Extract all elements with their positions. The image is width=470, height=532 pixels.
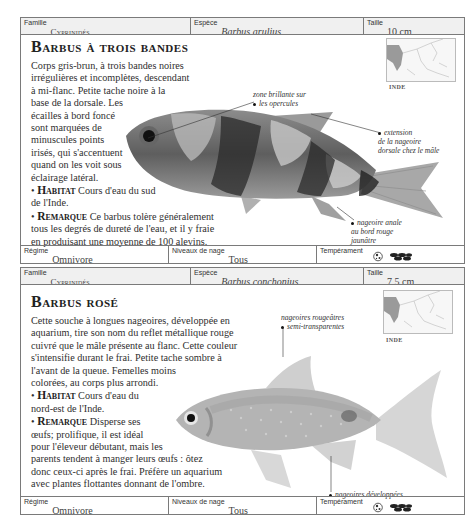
annotation-line: semi-transparentes: [287, 322, 344, 331]
card-header: Famille Cyprinidés Espèce Barbus arulius…: [21, 18, 464, 35]
regime-cell: Régime Omnivore: [21, 497, 169, 514]
desc-line: Cette souche à longues nageoires, dévelo…: [31, 315, 301, 327]
desc-line: l'avant de la queue. Femelles moins: [31, 365, 301, 377]
leader-line-icon: [336, 206, 356, 222]
annotation-line: zone brillante sur: [253, 90, 306, 99]
famille-value: Cyprinidés: [51, 277, 90, 284]
remarque-text: Disperse ses: [90, 416, 141, 427]
pointer-dot-icon: [351, 222, 354, 225]
famille-cell: Famille Cyprinidés: [21, 18, 191, 34]
peaceful-fish-icon: [373, 502, 383, 513]
range-map: [383, 290, 453, 334]
taille-label: Taille: [367, 269, 383, 276]
espece-label: Espèce: [194, 19, 217, 26]
habitat-text: Cours d'eau du sud: [78, 185, 155, 196]
fish-card-barbus-conchonius: Famille Cyprinidés Espèce Barbus conchon…: [20, 267, 465, 515]
temperament-label: Tempérament: [320, 498, 363, 505]
espece-value: Barbus conchonius: [221, 276, 298, 284]
desc-line: cuivré que le mâle présente au flanc. Ce…: [31, 340, 301, 352]
annotation-line: nageoire anale: [357, 218, 402, 227]
map-label: INDE: [389, 84, 406, 90]
desc-line: aquarium, tire son nom du reflet métalli…: [31, 327, 301, 339]
famille-label: Famille: [24, 269, 47, 276]
regime-value: Omnivore: [52, 254, 93, 263]
remarque-text: Ce barbus tolère généralement: [90, 211, 214, 222]
espece-label: Espèce: [194, 269, 217, 276]
regime-cell: Régime Omnivore: [21, 246, 169, 263]
taille-value: 10 cm: [387, 26, 412, 34]
remarque-section: • Remarque Disperse ses: [31, 415, 301, 428]
annotation-line: de la nageoire: [378, 137, 439, 146]
peaceful-fish-icon: [373, 251, 383, 262]
famille-cell: Famille Cyprinidés: [21, 268, 191, 284]
remarque-section: • Remarque Ce barbus tolère généralement: [31, 210, 361, 223]
remarque-text: tous les degrés de dureté de l'eau, et i…: [31, 223, 361, 235]
annotation-anal: nageoire anale au bord rouge jaunâtre: [351, 218, 402, 245]
remarque-label: Remarque: [37, 210, 87, 222]
temperament-cell: Tempérament: [317, 246, 464, 263]
description-text: Cette souche à longues nageoires, dévelo…: [31, 315, 301, 491]
desc-line: irrégulières et incomplètes, descendant: [31, 72, 291, 84]
remarque-text: œufs; prolifique, il est idéal: [31, 429, 301, 441]
description-text: Corps gris-brun, à trois bandes noires i…: [31, 60, 291, 248]
habitat-label: Habitat: [37, 389, 75, 401]
species-title: Barbus rosé: [31, 293, 118, 311]
taille-cell: Taille 10 cm: [364, 18, 464, 34]
desc-line: Corps gris-brun, à trois bandes noires: [31, 60, 291, 72]
niveaux-label: Niveaux de nage: [172, 247, 225, 254]
remarque-label: Remarque: [37, 415, 87, 427]
niveaux-value: Tous: [229, 254, 248, 263]
leader-line-icon: [311, 113, 383, 135]
remarque-text: parents tendent à manger leurs œufs : ôt…: [31, 453, 301, 465]
taille-cell: Taille 7,5 cm: [364, 268, 464, 284]
annotation-line: dorsale chez le mâle: [378, 146, 439, 155]
fish-card-barbus-arulius: Famille Cyprinidés Espèce Barbus arulius…: [20, 17, 465, 264]
remarque-text: avec plantes flottantes donnant de l'omb…: [31, 478, 301, 490]
famille-label: Famille: [24, 19, 47, 26]
habitat-label: Habitat: [37, 184, 75, 196]
taille-label: Taille: [367, 19, 383, 26]
annotation-dorsal: extension de la nageoire dorsale chez le…: [378, 128, 439, 155]
desc-line: à mi-flanc. Petite tache noire à la: [31, 85, 291, 97]
desc-line: éclairage latéral.: [31, 172, 291, 184]
habitat-section: • Habitat Cours d'eau du sud: [31, 184, 291, 197]
leader-line-icon: [146, 100, 256, 140]
niveaux-cell: Niveaux de nage Tous: [169, 246, 317, 263]
regime-label: Régime: [24, 498, 48, 505]
desc-line: s'intensifie durant le frai. Petite tach…: [31, 352, 301, 364]
annotation-fins-reddish: nageoires rougeâtres semi-transparentes: [281, 313, 344, 331]
card-header: Famille Cyprinidés Espèce Barbus conchon…: [21, 268, 464, 285]
annotation-line: jaunâtre: [351, 236, 402, 245]
regime-value: Omnivore: [52, 505, 93, 514]
annotation-line: nageoires rougeâtres: [281, 313, 344, 322]
range-map: [386, 38, 456, 82]
habitat-text: de l'Inde.: [31, 197, 291, 209]
niveaux-label: Niveaux de nage: [172, 498, 225, 505]
desc-line: quand on les voit sous: [31, 159, 291, 171]
annotation-line: les opercules: [259, 99, 298, 108]
niveaux-cell: Niveaux de nage Tous: [169, 497, 317, 514]
regime-label: Régime: [24, 247, 48, 254]
remarque-text: pour l'éleveur débutant, mais les: [31, 441, 301, 453]
espece-cell: Espèce Barbus arulius: [191, 18, 364, 34]
taille-value: 7,5 cm: [387, 276, 414, 284]
map-icon: [384, 291, 452, 333]
desc-line: irisés, qui s'accentuent: [31, 147, 291, 159]
card-footer: Régime Omnivore Niveaux de nage Tous Tem…: [21, 496, 464, 514]
annotation-operculum: zone brillante sur les opercules: [253, 90, 306, 108]
annotation-line: extension: [384, 128, 412, 137]
map-label: INDE: [386, 337, 403, 343]
leader-line-icon: [330, 456, 333, 492]
remarque-text: donc ceux-ci après le frai. Préfère un a…: [31, 466, 301, 478]
school-fish-icon: [388, 503, 414, 512]
espece-value: Barbus arulius: [221, 26, 281, 34]
school-fish-icon: [388, 252, 414, 261]
temperament-cell: Tempérament: [317, 497, 464, 514]
annotation-line: au bord rouge: [351, 227, 402, 236]
species-title: Barbus à trois bandes: [31, 38, 188, 56]
temperament-label: Tempérament: [320, 247, 363, 254]
map-icon: [387, 39, 455, 81]
famille-value: Cyprinidés: [51, 27, 90, 34]
leader-line-icon: [282, 327, 285, 357]
niveaux-value: Tous: [229, 505, 248, 514]
